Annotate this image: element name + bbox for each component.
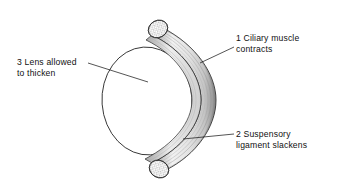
label-suspensory-ligament-line1: 2 Suspensory: [236, 129, 291, 139]
label-lens-line1: 3 Lens allowed: [17, 57, 77, 67]
label-ciliary-muscle: 1 Ciliary muscle contracts: [236, 33, 299, 55]
accommodation-diagram-figure: 1 Ciliary muscle contracts 2 Suspensory …: [0, 0, 342, 192]
label-suspensory-ligament: 2 Suspensory ligament slackens: [236, 129, 307, 151]
label-suspensory-ligament-line2: ligament slackens: [236, 140, 307, 151]
diagram-canvas: [0, 0, 342, 192]
label-ciliary-muscle-line1: 1 Ciliary muscle: [236, 33, 299, 43]
label-lens-line2: to thicken: [17, 68, 77, 79]
label-lens: 3 Lens allowed to thicken: [17, 57, 77, 79]
leader-line-ciliary-muscle: [200, 47, 234, 63]
label-ciliary-muscle-line2: contracts: [236, 44, 299, 55]
